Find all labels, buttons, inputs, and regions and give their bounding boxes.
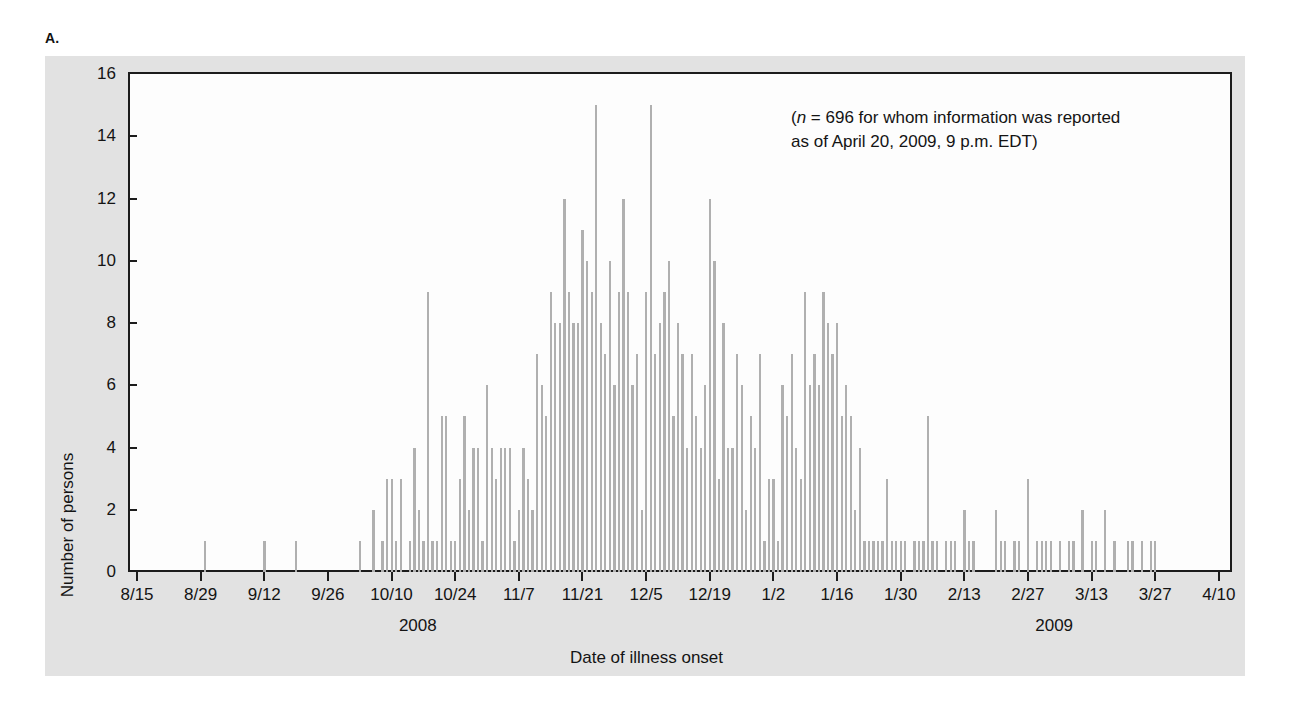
annotation-n-symbol: n: [797, 108, 806, 127]
bar: [263, 541, 265, 572]
bar: [1127, 541, 1129, 572]
bar: [763, 541, 765, 572]
bar: [1141, 541, 1143, 572]
x-axis-tick-mark: [645, 572, 647, 581]
y-axis-tick-mark: [128, 447, 137, 449]
y-axis-tick-mark: [128, 322, 137, 324]
bar: [409, 541, 411, 572]
bar: [527, 479, 529, 572]
bar: [586, 261, 588, 572]
x-axis-tick-label: 3/13: [1075, 586, 1108, 604]
bar: [422, 541, 424, 572]
bar: [927, 416, 929, 572]
bar: [568, 292, 570, 572]
bar: [936, 541, 938, 572]
bar: [850, 416, 852, 572]
x-axis-tick-mark: [709, 572, 711, 581]
bar: [768, 479, 770, 572]
bar: [1000, 541, 1002, 572]
bar: [591, 292, 593, 572]
bar: [445, 416, 447, 572]
bar: [704, 385, 706, 572]
y-axis-tick-label: 4: [76, 439, 116, 456]
bar: [400, 479, 402, 572]
bar: [495, 479, 497, 572]
bar: [886, 479, 888, 572]
bar: [427, 292, 429, 572]
bar: [722, 323, 724, 572]
y-axis-tick-label: 8: [76, 314, 116, 331]
x-axis-year-label: 2008: [399, 616, 437, 636]
bar: [922, 541, 924, 572]
bar: [891, 541, 893, 572]
x-axis-tick-mark: [518, 572, 520, 581]
y-axis-tick-mark: [128, 198, 137, 200]
bar: [709, 199, 711, 573]
bar: [718, 479, 720, 572]
bar: [831, 354, 833, 572]
bar: [754, 448, 756, 573]
bar: [559, 323, 561, 572]
bar: [550, 292, 552, 572]
bar: [1113, 541, 1115, 572]
y-axis-tick-labels: 0246810121416: [74, 0, 116, 708]
bar: [809, 385, 811, 572]
x-axis-tick-mark: [1154, 572, 1156, 581]
x-axis-tick-label: 8/29: [184, 586, 217, 604]
bar: [877, 541, 879, 572]
bar: [450, 541, 452, 572]
bar: [695, 416, 697, 572]
bar: [618, 292, 620, 572]
bar: [613, 385, 615, 572]
bar: [1150, 541, 1152, 572]
bar: [1027, 479, 1029, 572]
bar: [677, 323, 679, 572]
bar: [554, 323, 556, 572]
x-axis-tick-mark: [581, 572, 583, 581]
x-axis-tick-label: 8/15: [120, 586, 153, 604]
bar: [486, 385, 488, 572]
x-axis-tick-mark: [836, 572, 838, 581]
x-axis-tick-label: 10/24: [434, 586, 477, 604]
annotation-line1-rest: = 696 for whom information was reported: [806, 108, 1120, 127]
bar: [972, 541, 974, 572]
y-axis-tick-label: 16: [76, 65, 116, 82]
bar: [1095, 541, 1097, 572]
bar: [859, 448, 861, 573]
y-axis-tick-label: 14: [76, 127, 116, 144]
x-axis-tick-mark: [327, 572, 329, 581]
bar: [868, 541, 870, 572]
bar: [681, 354, 683, 572]
bar: [577, 323, 579, 572]
bar: [881, 541, 883, 572]
bar: [595, 105, 597, 572]
bar: [913, 541, 915, 572]
y-axis-tick-mark: [128, 384, 137, 386]
bar: [1018, 541, 1020, 572]
x-axis-tick-mark: [900, 572, 902, 581]
bar: [563, 199, 565, 573]
bar: [500, 448, 502, 573]
bar: [872, 541, 874, 572]
x-axis-tick-mark: [1218, 572, 1220, 581]
bar: [545, 416, 547, 572]
bar: [636, 354, 638, 572]
bar: [1154, 541, 1156, 572]
bar: [395, 541, 397, 572]
bar: [854, 510, 856, 572]
bar: [581, 230, 583, 572]
y-axis-tick-label: 2: [76, 501, 116, 518]
x-axis-tick-label: 11/21: [562, 586, 603, 604]
bar: [1091, 541, 1093, 572]
bar: [727, 448, 729, 573]
bar: [431, 541, 433, 572]
bar: [600, 323, 602, 572]
bar: [904, 541, 906, 572]
bar: [963, 510, 965, 572]
x-axis-tick-label: 2/13: [948, 586, 981, 604]
bar: [436, 541, 438, 572]
bar: [745, 510, 747, 572]
bar: [777, 541, 779, 572]
chart-annotation: (n = 696 for whom information was report…: [791, 106, 1120, 154]
bar: [1059, 541, 1061, 572]
